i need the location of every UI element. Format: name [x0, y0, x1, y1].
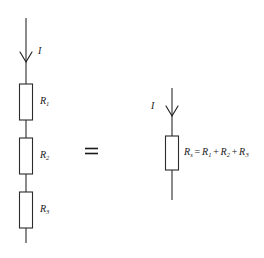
resistor-box-r1	[20, 84, 33, 120]
resistor-label-r1-subscript: 1	[46, 100, 49, 107]
equation-plus-2: +	[230, 146, 239, 157]
resistor-label-r3-subscript: 3	[46, 208, 49, 215]
series-resistors-figure: I R1 R2 R3 I Rs=R1+R2+R3	[0, 0, 264, 258]
equation-term1-subscript: 1	[208, 151, 211, 158]
right-current-label: I	[151, 101, 154, 111]
equation-term2-subscript: 2	[227, 151, 230, 158]
circuit-drawing	[0, 0, 264, 258]
resistor-label-r2: R2	[40, 150, 49, 160]
equals-sign-glyph	[85, 149, 98, 154]
resistor-box-r3	[20, 192, 33, 228]
resistor-label-r3: R3	[40, 204, 49, 214]
resistor-label-r2-subscript: 2	[46, 154, 49, 161]
resistor-box-rs	[166, 136, 179, 170]
resistor-box-r2	[20, 138, 33, 174]
resistor-label-r1: R1	[40, 96, 49, 106]
equation-term3-subscript: 3	[245, 151, 248, 158]
equation-lhs-subscript: s	[190, 151, 193, 158]
equation-plus-1: +	[212, 146, 221, 157]
right-circuit-group	[166, 88, 179, 200]
equation-term2-symbol: R	[221, 146, 227, 157]
left-circuit-group	[20, 18, 33, 243]
equivalent-resistance-equation: Rs=R1+R2+R3	[184, 147, 249, 157]
left-current-label: I	[38, 46, 41, 56]
equation-relation: =	[193, 146, 202, 157]
